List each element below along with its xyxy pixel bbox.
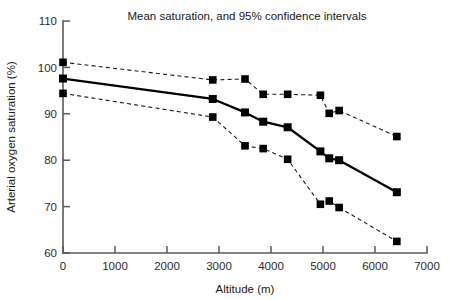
x-tick-label-1000: 1000 [102,260,128,272]
x-tick-label-2000: 2000 [154,260,180,272]
data-point-marker [316,147,324,155]
series-line-1 [63,79,397,193]
series-2 [59,90,400,246]
series-1 [59,75,401,197]
data-point-marker [335,156,343,164]
y-axis: 60708090100110 Arterial oxygen saturatio… [5,15,70,259]
series-0 [59,59,400,141]
x-tick-marks [63,246,427,253]
data-point-marker [284,91,292,99]
x-tick-label-4000: 4000 [258,260,284,272]
x-tick-labels: 01000200030004000500060007000 [60,260,440,272]
data-point-marker [284,155,292,163]
data-point-marker [393,133,401,141]
y-tick-label-80: 80 [44,154,57,166]
data-point-marker [209,95,217,103]
data-point-marker [59,90,67,98]
x-axis: 01000200030004000500060007000 Altitude (… [60,246,440,295]
data-point-marker [284,123,292,131]
y-tick-label-110: 110 [39,15,57,27]
data-point-marker [325,154,333,162]
y-tick-label-90: 90 [44,108,57,120]
y-tick-label-70: 70 [44,201,57,213]
x-tick-label-6000: 6000 [362,260,388,272]
chart-figure: Mean saturation, and 95% confidence inte… [0,0,450,300]
data-point-marker [393,188,401,196]
data-series-layer [59,59,401,246]
x-axis-title: Altitude (m) [216,283,275,295]
data-point-marker [241,75,249,83]
data-point-marker [241,142,249,150]
series-line-2 [63,93,397,241]
data-point-marker [317,200,325,208]
y-tick-label-100: 100 [38,62,57,74]
y-tick-label-60: 60 [44,247,57,259]
data-point-marker [241,108,249,116]
data-point-marker [317,91,325,99]
series-line-0 [63,62,397,136]
oxygen-saturation-line-chart: Mean saturation, and 95% confidence inte… [0,0,450,300]
x-tick-label-7000: 7000 [414,260,440,272]
x-tick-label-3000: 3000 [206,260,232,272]
data-point-marker [325,110,333,118]
x-tick-label-0: 0 [60,260,66,272]
data-point-marker [335,204,343,212]
data-point-marker [59,75,67,83]
y-tick-marks [63,21,70,253]
data-point-marker [59,59,67,67]
data-point-marker [259,118,267,126]
data-point-marker [209,76,217,84]
chart-title: Mean saturation, and 95% confidence inte… [127,10,366,22]
data-point-marker [259,91,267,99]
data-point-marker [335,107,343,115]
x-tick-label-5000: 5000 [310,260,336,272]
y-tick-labels: 60708090100110 [38,15,57,259]
data-point-marker [393,238,401,246]
data-point-marker [259,145,267,153]
data-point-marker [209,113,217,121]
data-point-marker [325,197,333,205]
y-axis-title: Arterial oxygen saturation (%) [5,61,17,213]
